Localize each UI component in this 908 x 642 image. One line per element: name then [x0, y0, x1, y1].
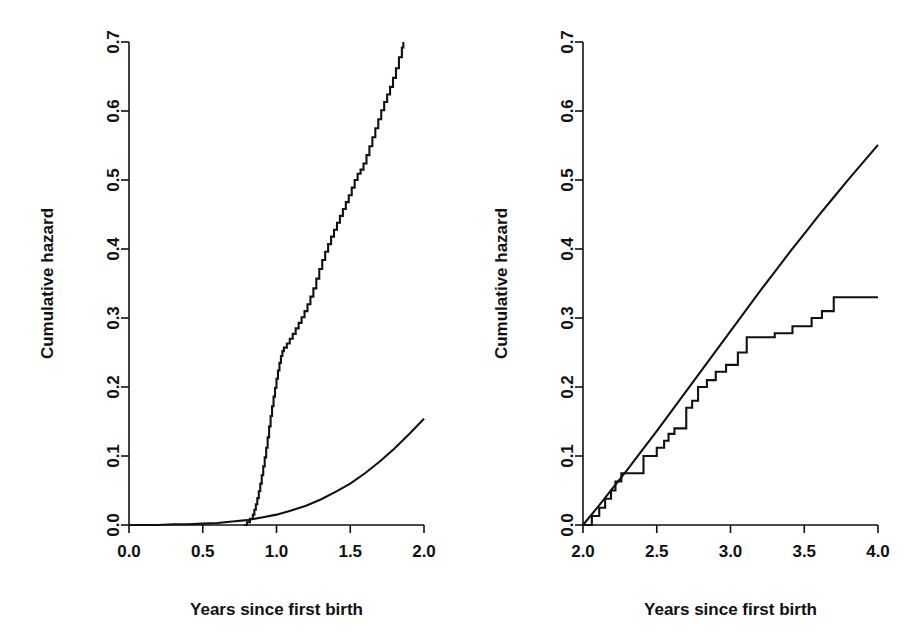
series-group-right: [583, 145, 878, 525]
y-tick-label: 0.1: [104, 444, 123, 468]
x-tick-label: 2.5: [645, 542, 669, 561]
y-axis-title: Cumulative hazard: [38, 208, 57, 359]
series-group-left: [129, 42, 424, 525]
x-tick-label: 0.0: [117, 542, 141, 561]
y-tick-label: 0.6: [558, 99, 577, 123]
x-axis-title: Years since first birth: [644, 600, 817, 619]
axes-group-left: 0.00.10.20.30.40.50.60.70.00.51.01.52.0: [104, 30, 436, 561]
chart-panel-right: 0.00.10.20.30.40.50.60.72.02.53.03.54.0 …: [454, 0, 908, 642]
chart-panel-left: 0.00.10.20.30.40.50.60.70.00.51.01.52.0 …: [0, 0, 454, 642]
y-tick-label: 0.6: [104, 99, 123, 123]
y-tick-label: 0.7: [558, 30, 577, 54]
y-tick-label: 0.0: [558, 513, 577, 537]
x-tick-label: 1.0: [265, 542, 289, 561]
y-tick-label: 0.3: [104, 306, 123, 330]
x-axis-title: Years since first birth: [190, 600, 363, 619]
x-tick-label: 2.0: [412, 542, 436, 561]
series-path-smooth: [129, 419, 424, 525]
y-tick-label: 0.0: [104, 513, 123, 537]
y-tick-label: 0.2: [558, 375, 577, 399]
y-tick-label: 0.4: [558, 237, 577, 261]
series-path-smooth: [583, 145, 878, 525]
x-tick-label: 2.0: [571, 542, 595, 561]
x-tick-label: 4.0: [866, 542, 890, 561]
y-tick-label: 0.7: [104, 30, 123, 54]
x-tick-label: 3.0: [719, 542, 743, 561]
plot-svg-right: 0.00.10.20.30.40.50.60.72.02.53.03.54.0 …: [454, 0, 908, 642]
figure-container: 0.00.10.20.30.40.50.60.70.00.51.01.52.0 …: [0, 0, 908, 642]
series-path-step: [244, 42, 403, 525]
y-tick-label: 0.1: [558, 444, 577, 468]
y-tick-label: 0.4: [104, 237, 123, 261]
y-axis-title: Cumulative hazard: [492, 208, 511, 359]
x-tick-label: 0.5: [191, 542, 215, 561]
y-tick-label: 0.5: [558, 168, 577, 192]
x-tick-label: 1.5: [338, 542, 362, 561]
axes-group-right: 0.00.10.20.30.40.50.60.72.02.53.03.54.0: [558, 30, 890, 561]
y-tick-label: 0.3: [558, 306, 577, 330]
x-tick-label: 3.5: [792, 542, 816, 561]
y-tick-label: 0.2: [104, 375, 123, 399]
plot-svg-left: 0.00.10.20.30.40.50.60.70.00.51.01.52.0 …: [0, 0, 454, 642]
y-tick-label: 0.5: [104, 168, 123, 192]
